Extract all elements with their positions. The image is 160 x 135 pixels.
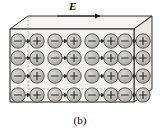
molecule-negative: [118, 51, 132, 65]
molecule-positive: [67, 88, 81, 102]
molecule-negative: [118, 69, 132, 83]
slab-top-face: [10, 16, 152, 29]
molecule-positive: [30, 88, 44, 102]
molecule-positive: [136, 88, 150, 102]
molecule-positive: [67, 34, 81, 48]
electric-field-label: E: [69, 1, 76, 12]
molecule-negative: [11, 88, 25, 102]
polarized-dielectric-figure: E (b): [0, 0, 160, 135]
molecule-positive: [30, 34, 44, 48]
figure-caption: (b): [0, 114, 160, 127]
molecule-negative: [85, 88, 99, 102]
molecule-negative: [48, 88, 62, 102]
molecule-negative: [11, 51, 25, 65]
molecule-negative: [48, 34, 62, 48]
molecule-positive: [67, 69, 81, 83]
molecule-negative: [48, 51, 62, 65]
molecule-positive: [30, 51, 44, 65]
molecule-positive: [136, 34, 150, 48]
molecule-negative: [118, 34, 132, 48]
molecule-negative: [85, 34, 99, 48]
molecule-positive: [104, 34, 118, 48]
molecule-positive: [30, 69, 44, 83]
molecule-negative: [85, 69, 99, 83]
molecule-negative: [48, 69, 62, 83]
molecule-positive: [104, 88, 118, 102]
molecule-negative: [11, 69, 25, 83]
molecule-negative: [118, 88, 132, 102]
molecule-negative: [11, 34, 25, 48]
molecule-positive: [104, 51, 118, 65]
molecule-positive: [67, 51, 81, 65]
molecule-positive: [104, 69, 118, 83]
molecule-negative: [85, 51, 99, 65]
molecule-positive: [136, 51, 150, 65]
molecule-positive: [136, 69, 150, 83]
